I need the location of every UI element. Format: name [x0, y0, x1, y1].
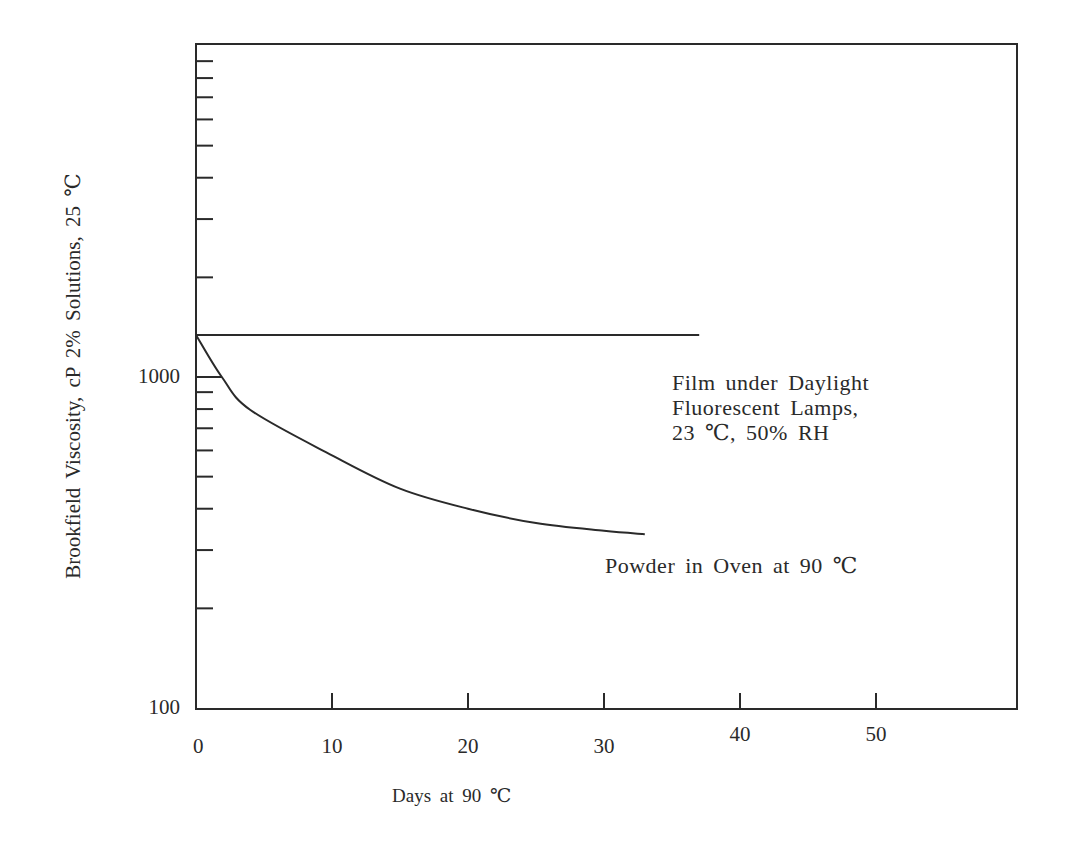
y-axis-label: Brookfield Viscosity, cP 2% Solutions, 2… — [61, 173, 86, 578]
x-tick-label: 10 — [322, 734, 343, 759]
data-series — [196, 335, 699, 534]
x-axis-label: Days at 90 ℃ — [392, 784, 511, 807]
x-tick-label: 40 — [730, 722, 751, 747]
annotation-film: Film under Daylight Fluorescent Lamps, 2… — [672, 370, 869, 445]
y-tick-label-100: 100 — [149, 695, 181, 720]
x-axis-ticks — [332, 693, 876, 708]
x-tick-label: 0 — [193, 734, 204, 759]
series-powder-curve — [196, 335, 645, 534]
y-tick-label-1000: 1000 — [138, 364, 180, 389]
annotation-powder: Powder in Oven at 90 ℃ — [605, 553, 858, 578]
plot-frame — [196, 44, 1017, 709]
x-tick-label: 20 — [458, 734, 479, 759]
x-tick-label: 30 — [594, 734, 615, 759]
annotation-film-line-3: 23 ℃, 50% RH — [672, 420, 869, 445]
x-tick-label: 50 — [866, 722, 887, 747]
annotation-film-line-1: Film under Daylight — [672, 370, 869, 395]
annotation-film-line-2: Fluorescent Lamps, — [672, 395, 869, 420]
chart-canvas — [0, 0, 1076, 852]
